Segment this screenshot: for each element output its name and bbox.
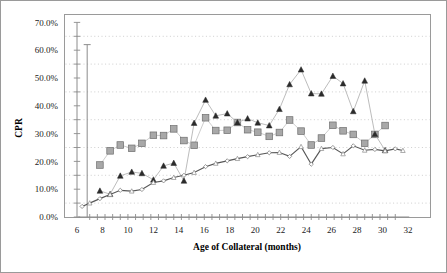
y-tick-labels: 0.0%10.0%20.0%30.0%40.0%50.0%60.0%70.0% xyxy=(35,18,59,223)
marker-square xyxy=(330,122,337,129)
y-tick-label: 10.0% xyxy=(35,184,59,194)
y-tick-label: 70.0% xyxy=(35,18,59,28)
x-tick-labels: 68101214161820222426283032 xyxy=(75,225,413,235)
y-axis-title: CPR xyxy=(14,118,24,138)
marker-square xyxy=(117,142,124,149)
marker-square xyxy=(266,133,273,140)
marker-square xyxy=(361,140,368,147)
x-tick-label: 6 xyxy=(75,225,80,235)
x-tick-label: 32 xyxy=(404,225,413,235)
x-axis-title: Age of Collateral (months) xyxy=(193,242,301,253)
marker-square xyxy=(350,131,357,138)
y-tick-label: 50.0% xyxy=(35,73,59,83)
x-tick-label: 22 xyxy=(276,225,285,235)
marker-square xyxy=(107,148,114,155)
x-tick-label: 8 xyxy=(100,225,105,235)
x-tick-label: 28 xyxy=(353,225,363,235)
marker-square xyxy=(286,117,293,124)
marker-square xyxy=(308,142,315,149)
y-tick-label: 20.0% xyxy=(35,157,59,167)
marker-square xyxy=(97,162,104,169)
cpr-vs-age-chart: 0.0%10.0%20.0%30.0%40.0%50.0%60.0%70.0% … xyxy=(0,0,447,273)
marker-square xyxy=(340,128,347,135)
x-tick-label: 16 xyxy=(200,225,210,235)
marker-square xyxy=(254,129,261,136)
marker-square xyxy=(170,126,177,133)
x-tick-label: 14 xyxy=(174,225,184,235)
x-tick-label: 10 xyxy=(123,225,133,235)
marker-square xyxy=(212,127,219,134)
marker-square xyxy=(202,114,209,121)
x-tick-label: 18 xyxy=(225,225,235,235)
y-tick-label: 0.0% xyxy=(39,212,58,222)
chart-figure: 0.0%10.0%20.0%30.0%40.0%50.0%60.0%70.0% … xyxy=(0,0,447,273)
x-tick-label: 24 xyxy=(302,225,312,235)
marker-square xyxy=(191,142,198,149)
y-tick-label: 30.0% xyxy=(35,129,59,139)
marker-square xyxy=(139,140,146,147)
y-tick-label: 60.0% xyxy=(35,45,59,55)
marker-square xyxy=(160,132,167,139)
marker-square xyxy=(224,127,231,134)
marker-square xyxy=(318,135,325,142)
marker-square xyxy=(382,122,389,129)
marker-square xyxy=(298,128,305,135)
marker-square xyxy=(244,126,251,133)
x-tick-label: 30 xyxy=(378,225,388,235)
marker-square xyxy=(181,137,188,144)
marker-square xyxy=(128,145,135,152)
x-tick-label: 26 xyxy=(327,225,337,235)
y-tick-label: 40.0% xyxy=(35,101,59,111)
x-tick-label: 20 xyxy=(251,225,261,235)
marker-square xyxy=(276,129,283,136)
marker-square xyxy=(150,132,157,139)
x-tick-label: 12 xyxy=(149,225,158,235)
